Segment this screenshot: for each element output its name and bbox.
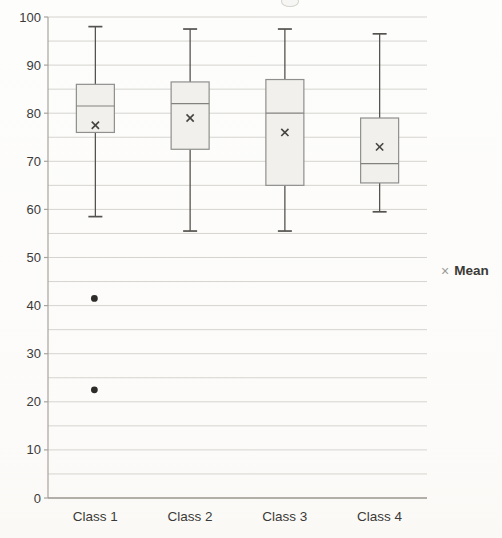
boxplot-chart: 0102030405060708090100Class 1Class 2Clas… <box>0 0 502 538</box>
legend: × Mean <box>441 263 489 278</box>
mean-marker-icon: × <box>441 264 449 278</box>
y-axis-tick-label: 20 <box>27 394 41 409</box>
y-axis-tick-label: 60 <box>27 202 41 217</box>
box-class-4 <box>361 118 399 183</box>
x-axis-label-class-1: Class 1 <box>73 509 118 524</box>
legend-mean-label: Mean <box>454 263 489 278</box>
chart-canvas: 0102030405060708090100Class 1Class 2Clas… <box>0 0 502 538</box>
box-class-2 <box>171 82 209 149</box>
y-axis-tick-label: 80 <box>27 106 41 121</box>
y-axis-tick-label: 50 <box>27 250 41 265</box>
y-axis-tick-label: 10 <box>27 442 41 457</box>
y-axis-tick-label: 0 <box>34 491 41 506</box>
y-axis-tick-label: 40 <box>27 298 41 313</box>
x-axis-label-class-2: Class 2 <box>168 509 213 524</box>
y-axis-tick-label: 70 <box>27 154 41 169</box>
outlier-dot-class-1 <box>91 386 98 393</box>
y-axis-tick-label: 90 <box>27 58 41 73</box>
x-axis-label-class-3: Class 3 <box>262 509 307 524</box>
x-axis-label-class-4: Class 4 <box>357 509 403 524</box>
y-axis-tick-label: 30 <box>27 346 41 361</box>
y-axis-tick-label: 100 <box>19 10 41 25</box>
outlier-dot-class-1 <box>91 295 98 302</box>
